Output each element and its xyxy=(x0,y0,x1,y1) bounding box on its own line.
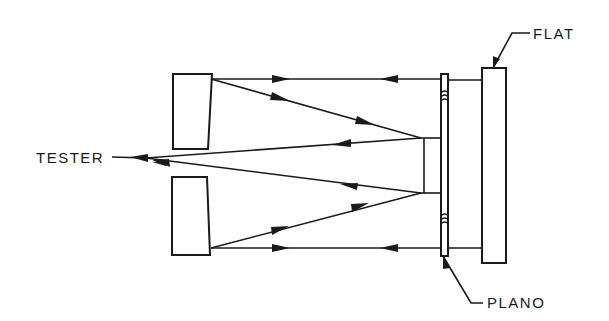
central-mirror xyxy=(419,138,441,193)
tester-label: TESTER xyxy=(36,149,104,166)
plano-plate xyxy=(441,74,448,256)
ray-lower-diagonal xyxy=(211,193,421,248)
optical-diagram: FLAT PLANO TESTER xyxy=(0,0,609,321)
flat-leader xyxy=(493,33,530,68)
ray-upper-diagonal xyxy=(211,79,421,138)
flat-label: FLAT xyxy=(533,25,575,42)
ray-lower-horizontal xyxy=(211,244,441,252)
reference-flat xyxy=(482,68,506,263)
plano-leader xyxy=(443,256,483,303)
upper-mirror xyxy=(173,74,212,149)
ray-upper-horizontal xyxy=(211,75,441,83)
lower-mirror xyxy=(172,177,210,255)
plano-label: PLANO xyxy=(487,294,545,311)
